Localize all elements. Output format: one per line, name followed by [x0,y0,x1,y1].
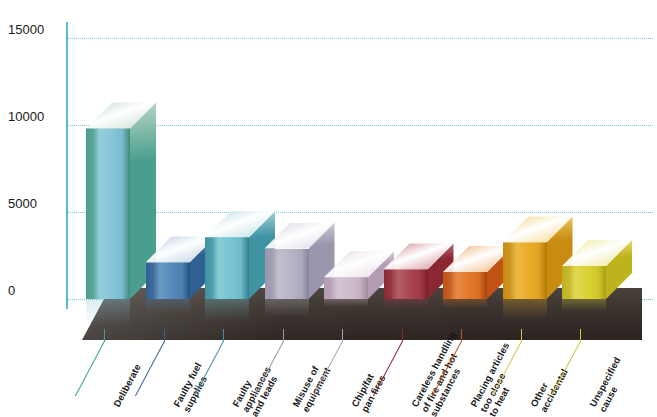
label-tick [164,329,165,342]
category-label-1: Deliberate [112,363,143,409]
label-tick [402,329,403,342]
category-label-9: Unspecified cause [588,355,632,413]
label-tick [461,329,462,342]
label-tick [283,329,284,342]
label-tick [580,329,581,342]
label-tick [104,329,105,342]
category-label-group: DeliberateFaulty fuel suppliesFaulty app… [0,0,657,417]
label-leader-line [372,341,402,396]
label-tick [223,329,224,342]
bar-chart: 150001000050000 DeliberateFaulty fuel su… [0,0,657,417]
label-tick [521,329,522,342]
label-leader-line [75,341,105,396]
label-tick [342,329,343,342]
category-label-5: Chip/fat pan fires [350,368,388,414]
